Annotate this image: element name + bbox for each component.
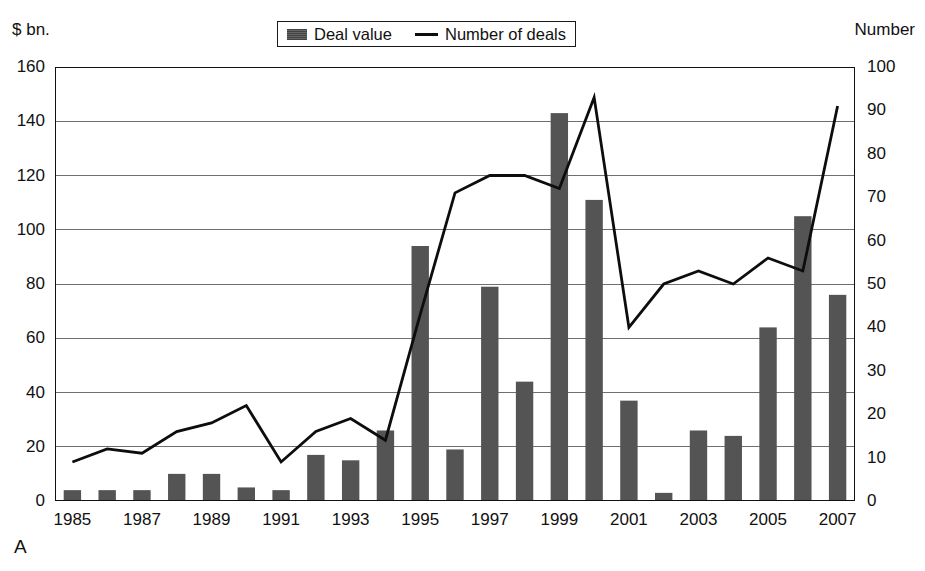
- y-axis-left-tick-label: 40: [3, 383, 45, 403]
- y-axis-right-tick-label: 50: [867, 274, 909, 294]
- bar: [620, 401, 637, 501]
- x-axis-tick-label: 1995: [390, 510, 450, 530]
- y-axis-left-tick-label: 160: [3, 57, 45, 77]
- y-axis-right-tick-label: 0: [867, 491, 909, 511]
- x-axis-tick-label: 2005: [738, 510, 798, 530]
- bar: [307, 455, 324, 501]
- legend-label-number-of-deals: Number of deals: [445, 25, 566, 44]
- y-axis-right-tick-label: 60: [867, 231, 909, 251]
- chart-canvas: [55, 67, 855, 501]
- cropped-caption-strip: ………………………………………: [0, 0, 925, 12]
- bar: [446, 449, 463, 501]
- bar: [759, 327, 776, 501]
- x-axis-tick-label: 1993: [321, 510, 381, 530]
- bar: [412, 246, 429, 501]
- bar: [342, 460, 359, 501]
- y-axis-right-tick-label: 80: [867, 144, 909, 164]
- y-axis-right-tick-label: 100: [867, 57, 909, 77]
- chart-legend: Deal value Number of deals: [277, 21, 576, 47]
- x-axis-tick-label: 1985: [42, 510, 102, 530]
- x-axis-tick-label: 1989: [182, 510, 242, 530]
- y-axis-right-tick-label: 40: [867, 317, 909, 337]
- y-axis-left-tick-label: 0: [3, 491, 45, 511]
- x-axis-tick-label: 1987: [112, 510, 172, 530]
- bar: [168, 474, 185, 501]
- bar: [64, 490, 81, 501]
- bar: [725, 436, 742, 501]
- bar: [98, 490, 115, 501]
- chart-figure: ……………………………………… $ bn. Number Deal value …: [0, 0, 925, 571]
- y-axis-left-tick-label: 60: [3, 328, 45, 348]
- bar: [238, 487, 255, 501]
- x-axis-tick-label: 2007: [808, 510, 868, 530]
- y-axis-left-title: $ bn.: [12, 20, 50, 40]
- y-axis-right-title: Number: [855, 20, 915, 40]
- y-axis-right-tick-label: 20: [867, 404, 909, 424]
- bar: [481, 287, 498, 501]
- y-axis-right-tick-label: 10: [867, 448, 909, 468]
- plot-area: [55, 67, 855, 501]
- bar: [585, 200, 602, 501]
- x-axis-tick-label: 1997: [460, 510, 520, 530]
- bar: [272, 490, 289, 501]
- bar-series: [64, 113, 847, 501]
- gridlines: [55, 67, 855, 447]
- legend-label-deal-value: Deal value: [314, 25, 392, 44]
- y-axis-left-tick-label: 80: [3, 274, 45, 294]
- bar: [655, 493, 672, 501]
- x-axis-tick-label: 2003: [668, 510, 728, 530]
- bar: [690, 430, 707, 501]
- bar: [133, 490, 150, 501]
- panel-letter-label: A: [14, 536, 27, 558]
- y-axis-left-tick-label: 100: [3, 220, 45, 240]
- line-swatch-icon: [415, 33, 438, 36]
- y-axis-left-tick-label: 120: [3, 166, 45, 186]
- y-axis-right-tick-label: 70: [867, 187, 909, 207]
- y-axis-left-tick-label: 140: [3, 111, 45, 131]
- y-axis-left-tick-label: 20: [3, 437, 45, 457]
- y-axis-right-tick-label: 30: [867, 361, 909, 381]
- bar-swatch-icon: [287, 29, 307, 40]
- legend-item-number-of-deals: Number of deals: [415, 25, 566, 44]
- x-axis-tick-label: 2001: [599, 510, 659, 530]
- cropped-caption-text: ………………………………………: [195, 0, 735, 3]
- bar: [829, 295, 846, 501]
- y-axis-right-tick-label: 90: [867, 100, 909, 120]
- bar: [794, 216, 811, 501]
- line-series: [72, 97, 837, 462]
- x-axis-tick-label: 1999: [529, 510, 589, 530]
- x-axis-tick-label: 1991: [251, 510, 311, 530]
- legend-item-deal-value: Deal value: [287, 25, 392, 44]
- bar: [516, 382, 533, 501]
- bar: [203, 474, 220, 501]
